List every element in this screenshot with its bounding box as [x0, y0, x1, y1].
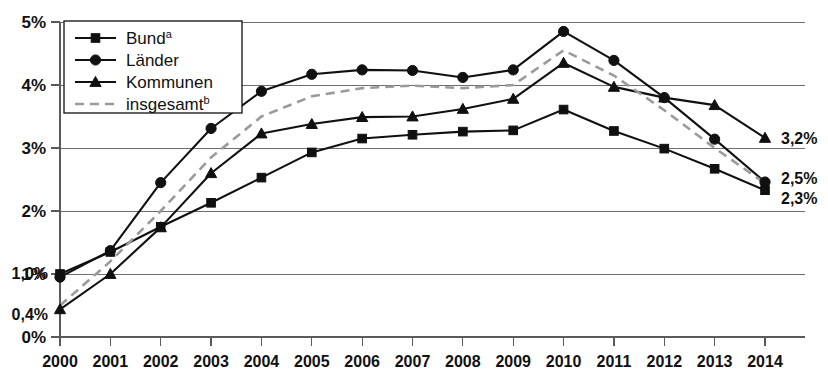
x-axis-tick-label: 2010 [546, 353, 582, 370]
line-chart: 0%1%2%3%4%5% 200020012002200320042005200… [0, 0, 828, 372]
marker-square [710, 164, 719, 173]
x-axis-labels-group: 2000200120022003200420052006200720082009… [42, 353, 783, 370]
marker-circle [710, 134, 720, 144]
y-axis-tick-label: 0% [21, 328, 46, 347]
marker-circle [105, 246, 115, 256]
marker-triangle [759, 132, 770, 142]
x-axis-tick-label: 2003 [193, 353, 229, 370]
marker-square [509, 126, 518, 135]
data-point-labels-group: 1,0%0,4%3,2%2,5%2,3% [12, 130, 818, 323]
marker-triangle [608, 81, 619, 91]
marker-square [610, 127, 619, 136]
data-point-label: 0,4% [12, 306, 48, 323]
marker-circle [256, 86, 266, 96]
marker-square [91, 34, 100, 43]
marker-circle [407, 65, 417, 75]
x-axis-tick-label: 2007 [395, 353, 431, 370]
marker-circle [609, 55, 619, 65]
marker-circle [508, 65, 518, 75]
marker-square [408, 130, 417, 139]
data-point-label: 3,2% [781, 130, 817, 147]
legend: BundaLänderKommuneninsgesamtb [64, 21, 242, 114]
legend-item-label: Kommunen [126, 73, 213, 92]
legend-item-label: Bunda [126, 28, 173, 48]
marker-circle [558, 26, 568, 36]
x-axis-tick-label: 2000 [42, 353, 78, 370]
x-axis-tick-label: 2011 [597, 353, 632, 370]
y-axis-labels-group: 0%1%2%3%4%5% [21, 13, 46, 347]
x-axis-tick-label: 2014 [747, 353, 783, 370]
marker-circle [458, 72, 468, 82]
marker-circle [90, 55, 100, 65]
marker-square [660, 144, 669, 153]
x-axis-tick-label: 2008 [445, 353, 481, 370]
y-axis-tick-label: 3% [21, 139, 46, 158]
marker-square [559, 105, 568, 114]
y-axis-tick-label: 5% [21, 13, 46, 32]
x-axis-tick-label: 2009 [495, 353, 531, 370]
data-point-label: 1,0% [12, 265, 48, 282]
y-axis-tick-label: 4% [21, 76, 46, 95]
x-axis-tick-label: 2006 [344, 353, 380, 370]
chart-container: 0%1%2%3%4%5% 200020012002200320042005200… [0, 0, 828, 372]
marker-square [459, 127, 468, 136]
data-point-label: 2,3% [781, 190, 817, 207]
marker-circle [206, 123, 216, 133]
x-axis-tick-label: 2013 [697, 353, 733, 370]
legend-item-label: Länder [126, 51, 179, 70]
y-axis-tick-label: 2% [21, 202, 46, 221]
marker-circle [760, 177, 770, 187]
marker-circle [156, 178, 166, 188]
legend-item-label: insgesamtb [126, 94, 210, 114]
x-axis-tick-label: 2001 [93, 353, 129, 370]
x-axis-tick-label: 2005 [294, 353, 330, 370]
marker-circle [357, 65, 367, 75]
marker-circle [55, 272, 65, 282]
marker-square [358, 134, 367, 143]
marker-triangle [54, 304, 65, 314]
x-axis-tick-label: 2012 [646, 353, 682, 370]
marker-triangle [558, 57, 569, 67]
marker-square [307, 148, 316, 157]
x-axis-tick-label: 2004 [244, 353, 280, 370]
marker-square [257, 173, 266, 182]
data-point-label: 2,5% [781, 170, 817, 187]
marker-square [207, 199, 216, 208]
marker-triangle [508, 93, 519, 103]
x-axis-tick-label: 2002 [143, 353, 179, 370]
marker-circle [307, 69, 317, 79]
